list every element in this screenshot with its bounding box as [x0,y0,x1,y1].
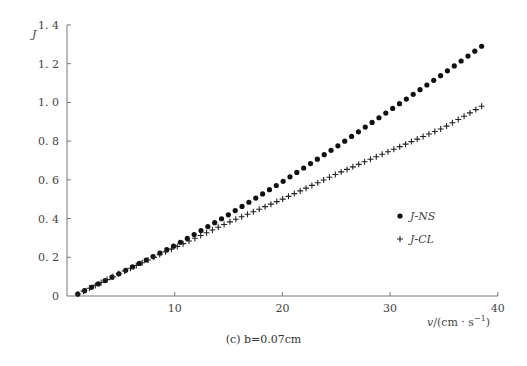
data-point-j-ns [322,152,327,157]
data-point-j-ns [349,134,354,139]
data-point-j-ns [356,129,361,134]
x-tick-label: 20 [275,302,289,315]
data-point-j-ns [260,191,265,196]
data-point-j-ns [465,54,470,59]
data-point-j-cl [303,185,309,191]
x-axis-label: v/(cm · s−1) [427,314,490,329]
legend-label-j-cl: J-CL [408,233,434,246]
data-point-j-ns [397,101,402,106]
y-axis-label: J [30,28,37,41]
data-point-j-ns [198,228,203,233]
data-point-j-cl [373,154,379,160]
data-point-j-ns [226,212,231,217]
data-point-j-ns [281,179,286,184]
data-point-j-cl [338,169,344,175]
data-point-j-cl [391,146,397,152]
data-point-j-cl [227,219,233,225]
data-point-j-cl [291,191,297,197]
data-point-j-cl [309,182,315,188]
data-point-j-ns [294,170,299,175]
data-point-j-ns [212,220,217,225]
data-point-j-ns [424,82,429,87]
x-tick-label: 40 [491,302,505,315]
data-point-j-ns [205,224,210,229]
data-point-j-cl [367,156,373,162]
data-point-j-cl [467,110,473,116]
data-point-j-cl [426,131,432,137]
legend-marker-j-ns [397,213,402,218]
data-point-j-ns [445,68,450,73]
data-point-j-ns [459,58,464,63]
data-point-j-cl [221,222,227,228]
data-point-j-cl [326,174,332,180]
y-tick-label: 0 [52,290,59,303]
data-point-j-ns [472,49,477,54]
legend-label-j-ns: J-NS [408,210,436,223]
data-point-j-cl [473,107,479,113]
data-point-j-ns [315,157,320,162]
data-point-j-cl [479,103,485,109]
data-point-j-ns [404,96,409,101]
y-tick-label: 1. 4 [38,19,59,32]
y-tick-label: 0. 4 [38,213,59,226]
data-point-j-cl [285,193,291,199]
legend-marker-j-cl [397,236,403,242]
data-point-j-ns [438,73,443,78]
x-tick-label: 30 [383,302,397,315]
data-point-j-cl [250,209,256,215]
data-point-j-cl [233,216,239,222]
y-tick-label: 0. 6 [38,174,59,187]
data-point-j-cl [262,204,268,210]
data-point-j-cl [444,123,450,129]
data-point-j-cl [297,188,303,194]
data-point-j-cl [209,227,215,233]
data-point-j-cl [274,199,280,205]
chart-container: 00. 20. 40. 60. 81. 01. 21. 410203040Jv/… [0,0,527,366]
data-point-j-cl [438,126,444,132]
data-point-j-ns [308,161,313,166]
data-point-j-cl [385,149,391,155]
data-point-j-ns [417,87,422,92]
y-tick-label: 1. 0 [38,96,59,109]
data-point-j-cl [256,206,262,212]
data-point-j-cl [116,271,122,277]
data-point-j-ns [233,208,238,213]
y-tick-label: 0. 2 [38,251,59,264]
data-point-j-cl [215,224,221,230]
data-point-j-cl [344,166,350,172]
data-point-j-ns [376,115,381,120]
data-point-j-ns [383,110,388,115]
data-point-j-cl [379,151,385,157]
data-point-j-ns [328,148,333,153]
data-point-j-ns [411,92,416,97]
data-point-j-ns [192,232,197,237]
data-point-j-ns [431,78,436,83]
data-point-j-cl [198,232,204,238]
x-tick-label: 10 [168,302,182,315]
data-point-j-cl [204,230,210,236]
data-point-j-ns [452,63,457,68]
data-point-j-cl [455,116,461,122]
data-point-j-ns [267,187,272,192]
data-point-j-ns [246,200,251,205]
data-point-j-ns [150,254,155,259]
data-point-j-ns [274,183,279,188]
y-tick-label: 1. 2 [38,58,59,71]
data-point-j-ns [219,216,224,221]
data-point-j-ns [363,125,368,130]
data-point-j-cl [268,201,274,207]
data-point-j-ns [301,165,306,170]
data-point-j-cl [449,120,455,126]
data-point-j-cl [332,171,338,177]
data-point-j-cl [321,177,327,183]
data-point-j-ns [479,44,484,49]
data-point-j-cl [408,139,414,145]
data-point-j-cl [461,113,467,119]
data-point-j-ns [390,106,395,111]
data-point-j-cl [356,161,362,167]
data-point-j-cl [280,196,286,202]
data-point-j-cl [432,129,438,135]
y-tick-label: 0. 8 [38,135,59,148]
data-point-j-cl [397,144,403,150]
data-point-j-ns [370,120,375,125]
